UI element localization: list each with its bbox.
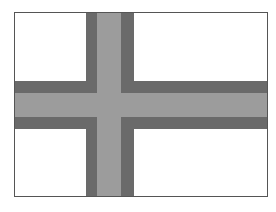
nordic-cross-flag [14,12,268,197]
cross-horizontal-inner [15,93,267,117]
